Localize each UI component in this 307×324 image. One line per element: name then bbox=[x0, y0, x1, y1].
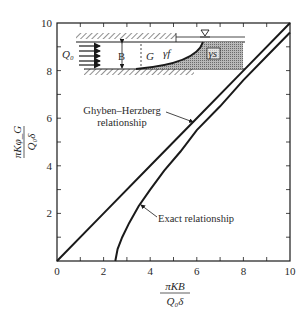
y-label-numerator: πKφ_G bbox=[11, 126, 23, 158]
inset-gamma-f-label: γf bbox=[163, 47, 172, 59]
top-confining-layer bbox=[76, 33, 176, 39]
figure-caption-cropped bbox=[0, 316, 307, 324]
y-tick-label: 6 bbox=[47, 112, 53, 124]
inset-q-label: Q₀ bbox=[62, 48, 74, 60]
inset-g-label: G bbox=[146, 50, 154, 62]
chart-figure: 0246810246810 Ghyben–Herzberg relationsh… bbox=[0, 0, 307, 324]
inflow-arrows-icon bbox=[79, 46, 100, 65]
x-axis-label: πKB Q₀δ bbox=[160, 280, 190, 307]
x-tick-label: 6 bbox=[194, 265, 200, 277]
gh-label-line2: relationship bbox=[97, 117, 147, 128]
x-tick-label: 10 bbox=[285, 265, 297, 277]
ghyben-herzberg-line bbox=[57, 23, 290, 261]
x-tick-label: 0 bbox=[54, 265, 60, 277]
x-label-numerator: πKB bbox=[165, 280, 185, 292]
y-tick-label: 2 bbox=[47, 207, 53, 219]
y-tick-label: 4 bbox=[47, 160, 53, 172]
x-tick-label: 8 bbox=[241, 265, 247, 277]
inset-aquifer-diagram: Q₀ B G γf γs bbox=[62, 30, 245, 75]
bottom-confining-layer bbox=[84, 69, 194, 75]
y-axis-label: πKφ_G Q₀δ bbox=[11, 126, 37, 158]
y-tick-label: 10 bbox=[41, 17, 53, 29]
x-tick-label: 4 bbox=[147, 265, 153, 277]
exact-label: Exact relationship bbox=[158, 213, 234, 224]
gh-arrow-icon bbox=[166, 112, 193, 122]
inset-gamma-s-label: γs bbox=[209, 47, 218, 59]
water-table-icon bbox=[201, 30, 209, 36]
y-label-denominator: Q₀δ bbox=[25, 133, 37, 151]
y-tick-label: 8 bbox=[47, 65, 53, 77]
exact-arrow-icon bbox=[141, 205, 157, 217]
x-label-denominator: Q₀δ bbox=[167, 295, 185, 307]
x-tick-label: 2 bbox=[101, 265, 107, 277]
gh-label-line1: Ghyben–Herzberg bbox=[83, 105, 161, 116]
inset-b-label: B bbox=[118, 51, 125, 62]
